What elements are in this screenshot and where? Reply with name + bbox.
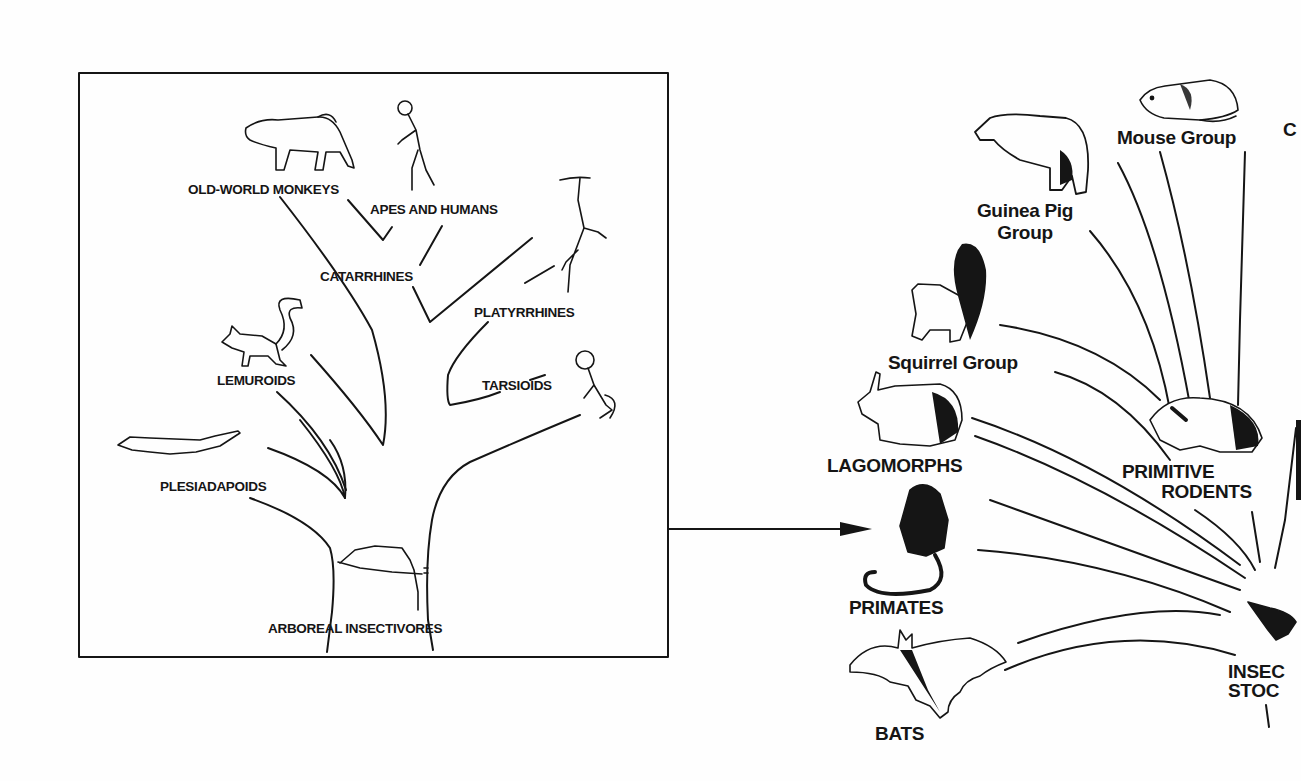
- label-apes-and-humans: APES AND HUMANS: [370, 203, 498, 217]
- label-insect-line2: STOC: [1228, 681, 1285, 700]
- label-primitive-rodents: PRIMITIVE RODENTS: [1122, 462, 1252, 501]
- label-guinea-pig-line1: Guinea Pig: [966, 201, 1084, 220]
- label-bats: BATS: [875, 724, 924, 743]
- label-old-world-monkeys: OLD-WORLD MONKEYS: [188, 183, 339, 197]
- tree-shrew-icon: [338, 546, 428, 610]
- label-mouse-group: Mouse Group: [1117, 128, 1236, 147]
- monkey-icon: [865, 485, 948, 594]
- ape-icon: [398, 101, 434, 190]
- label-platyrrhines: PLATYRRHINES: [474, 306, 574, 320]
- label-primitive-line2: RODENTS: [1122, 482, 1252, 501]
- label-guinea-pig-group: Guinea Pig Group: [966, 201, 1084, 242]
- label-tarsioids: TARSIOIDS: [482, 379, 552, 393]
- spider-monkey-icon: [560, 177, 606, 292]
- plesiadapis-icon: [118, 431, 240, 454]
- label-lemuroids: LEMUROIDS: [217, 374, 295, 388]
- mouse-icon: [1140, 80, 1238, 121]
- label-insect-line1: INSEC: [1228, 662, 1285, 681]
- shrew-icon: [1248, 602, 1296, 640]
- crop-edge: [1296, 420, 1301, 500]
- label-cropped-c: C: [1283, 120, 1296, 139]
- rabbit-icon: [858, 372, 962, 446]
- label-lagomorphs: LAGOMORPHS: [827, 456, 962, 475]
- diagram-canvas: [0, 0, 1301, 781]
- label-guinea-pig-line2: Group: [966, 223, 1084, 242]
- label-catarrhines: CATARRHINES: [320, 270, 413, 284]
- primate-tree-branches: [250, 197, 580, 652]
- label-insectivore-stock: INSEC STOC: [1228, 662, 1285, 700]
- label-primates: PRIMATES: [849, 598, 943, 617]
- lemur-icon: [222, 298, 302, 366]
- guinea-pig-icon: [975, 114, 1088, 194]
- primitive-rodent-icon: [1150, 398, 1262, 452]
- bat-icon: [850, 630, 1006, 718]
- label-squirrel-group: Squirrel Group: [888, 353, 1018, 372]
- tarsier-icon: [576, 351, 615, 418]
- label-plesiadapoids: PLESIADAPOIDS: [160, 480, 266, 494]
- baboon-icon: [246, 114, 355, 170]
- connector-arrow: [668, 522, 872, 536]
- label-arboreal-insectivores: ARBOREAL INSECTIVORES: [268, 622, 442, 636]
- label-primitive-line1: PRIMITIVE: [1122, 462, 1252, 481]
- squirrel-icon: [912, 244, 986, 342]
